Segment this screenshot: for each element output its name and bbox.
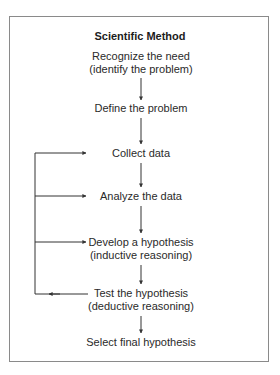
flow-arrows (0, 0, 280, 375)
